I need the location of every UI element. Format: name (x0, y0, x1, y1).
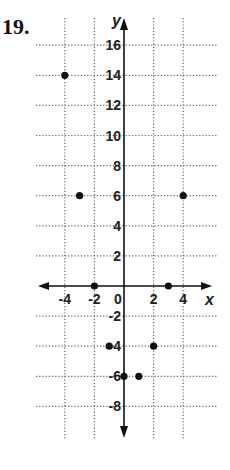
data-point (150, 343, 157, 350)
y-tick-label: 6 (113, 188, 121, 204)
y-tick-label: -2 (109, 308, 122, 324)
y-axis-up-arrow-icon (120, 18, 128, 30)
x-axis-left-arrow-icon (38, 282, 49, 290)
x-tick-label: -4 (59, 291, 72, 307)
data-point (91, 282, 98, 289)
x-tick-label: 2 (150, 291, 158, 307)
y-tick-label: 14 (105, 67, 121, 83)
data-point (165, 282, 172, 289)
y-tick-label: -6 (109, 368, 122, 384)
coordinate-plane: xy-4-2024161412108642-2-4-6-8 (0, 0, 230, 470)
y-axis-label: y (111, 12, 122, 29)
data-point (120, 373, 127, 380)
y-tick-label: -8 (109, 398, 122, 414)
y-axis-down-arrow-icon (120, 426, 128, 438)
tick-labels: xy-4-2024161412108642-2-4-6-8 (59, 12, 215, 414)
x-axis-right-arrow-icon (201, 282, 212, 290)
y-tick-label: 4 (113, 218, 121, 234)
x-tick-label: 4 (179, 291, 187, 307)
data-point (106, 343, 113, 350)
x-axis-label: x (204, 291, 215, 308)
data-point (180, 192, 187, 199)
x-tick-label: -2 (88, 291, 101, 307)
y-tick-label: 12 (105, 97, 121, 113)
y-tick-label: 10 (105, 128, 121, 144)
y-tick-label: 16 (105, 37, 121, 53)
data-point (61, 72, 68, 79)
y-tick-label: 8 (113, 158, 121, 174)
y-tick-label: 2 (113, 248, 121, 264)
data-point (135, 373, 142, 380)
x-tick-label: 0 (114, 291, 122, 307)
data-point (76, 192, 83, 199)
